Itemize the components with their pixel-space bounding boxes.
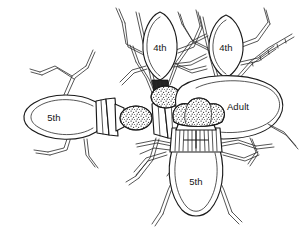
- insect-illustration-svg: 5th: [0, 0, 303, 238]
- label-specimen-adult: Adult: [227, 101, 249, 112]
- label-specimen-bottom: 5th: [189, 176, 203, 187]
- label-specimen-left: 5th: [47, 112, 61, 123]
- figure-container: 5th: [0, 0, 303, 238]
- label-specimen-upper-left: 4th: [153, 42, 167, 53]
- specimen-left-abdomen: [24, 95, 100, 139]
- label-specimen-upper-right: 4th: [219, 42, 233, 53]
